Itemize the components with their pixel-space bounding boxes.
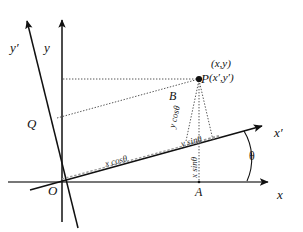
x-axis-label: x (277, 188, 283, 201)
figure-canvas (0, 0, 303, 232)
point-b-label: B (169, 90, 176, 102)
y-axis-label: y (44, 41, 50, 54)
point-a-marker (198, 181, 201, 184)
y-prime-axis-label: y′ (10, 41, 19, 54)
point-p-label: P (201, 72, 209, 85)
point-q-label: Q (27, 117, 36, 130)
origin-label: O (48, 184, 57, 197)
dotted-b-to-p (186, 80, 199, 141)
point-p-primed-coords: (x′,y′) (209, 72, 234, 83)
x-prime-axis-line (30, 126, 262, 190)
theta-angle-label: θ (249, 150, 255, 162)
dotted-p-to-xprime-foot (199, 80, 213, 140)
rotation-of-axes-figure: y′ y x′ x O A B Q P (x,y) (x′,y′) θ x co… (0, 0, 303, 232)
point-a-label: A (195, 186, 202, 198)
point-p-unprimed-coords: (x,y) (211, 58, 231, 69)
segment-label-x-sin-theta: x sinθ (190, 157, 199, 178)
x-prime-axis-label: x′ (274, 126, 283, 139)
